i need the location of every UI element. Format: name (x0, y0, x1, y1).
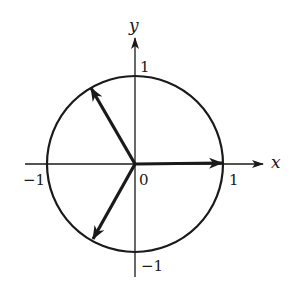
unit-circle-diagram: y x 1 1 −1 0 −1 (0, 0, 298, 288)
origin-label: 0 (139, 171, 149, 189)
vector-240deg (93, 164, 135, 239)
y-axis-label: y (128, 15, 139, 35)
x-tick-neg-1: −1 (23, 171, 45, 189)
y-tick-neg-1: −1 (141, 257, 163, 275)
vector-120deg (91, 88, 135, 164)
x-tick-pos-1: 1 (229, 171, 239, 189)
vector-0deg (135, 163, 222, 164)
y-tick-pos-1: 1 (140, 58, 150, 76)
x-axis-label: x (271, 152, 281, 172)
